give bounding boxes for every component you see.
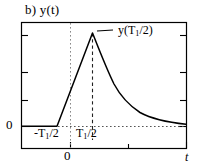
y-axis-ticks [22,36,31,127]
figure-panel: b) y(t) [0,0,201,168]
y-axis-zero-label: 0 [6,117,13,133]
x-axis-ticks [71,142,187,149]
peak-leader-line [97,30,113,31]
chart-canvas [0,0,201,168]
x-tick-label-neg-t-half: -T1/2 [34,126,59,141]
x-axis-origin-label: 0 [64,148,71,164]
x-axis-title: t [185,150,188,165]
x-tick-label-pos-t-half: T1/2 [76,126,97,141]
signal-curve [22,33,186,126]
right-axis-ticks [178,36,187,127]
peak-annotation-label: y(T1/2) [118,23,153,38]
